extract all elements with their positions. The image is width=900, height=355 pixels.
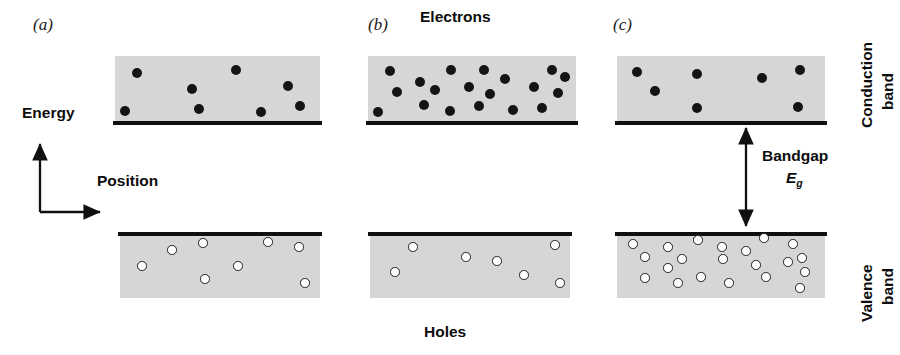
- panel-label-c: (c): [613, 15, 632, 35]
- bandgap-symbol-label: Eg: [786, 169, 803, 189]
- panel-c-valence-hole-16: [761, 272, 771, 282]
- panel-c-valence-hole-9: [696, 272, 706, 282]
- panel-a-valence-hole-7: [294, 242, 304, 252]
- bandgap-symbol-e: E: [786, 169, 796, 186]
- panel-a-valence-hole-8: [300, 278, 310, 288]
- panel-c-conduction-band-edge: [615, 121, 827, 125]
- band-diagram-figure: (a) (b) (c) Energy Posi: [0, 0, 900, 355]
- panel-a-valence-hole-6: [263, 237, 273, 247]
- panel-c-valence-hole-20: [800, 267, 810, 277]
- panel-c-valence-hole-10: [717, 242, 727, 252]
- valence-band-label-line1: Valence: [858, 264, 876, 322]
- panel-c-valence-hole-4: [663, 242, 673, 252]
- panel-a-valence-hole-5: [233, 261, 243, 271]
- panel-label-a: (a): [33, 15, 53, 35]
- panel-c-valence-hole-3: [640, 252, 650, 262]
- panel-a-valence-hole-1: [137, 261, 147, 271]
- panel-c-valence-hole-18: [788, 239, 798, 249]
- panel-b-valence-band-box: [370, 236, 570, 298]
- panel-b-valence-hole-1: [390, 267, 400, 277]
- panel-b-valence-hole-6: [550, 240, 560, 250]
- panel-c-valence-hole-7: [673, 278, 683, 288]
- panel-a-valence-hole-4: [200, 274, 210, 284]
- panel-c-valence-hole-8: [693, 235, 703, 245]
- panel-c-valence-hole-14: [751, 260, 761, 270]
- conduction-band-label-line1: Conduction: [858, 42, 876, 128]
- panel-c-valence-hole-17: [783, 257, 793, 267]
- panel-c-valence-hole-6: [677, 254, 687, 264]
- valence-band-label-line2: band: [879, 268, 897, 305]
- panel-c-valence-hole-1: [628, 239, 638, 249]
- panel-c-valence-hole-21: [795, 283, 805, 293]
- panel-a-valence-band-box: [120, 236, 320, 298]
- panel-b-valence-hole-2: [408, 242, 418, 252]
- panel-b-valence-hole-4: [492, 256, 502, 266]
- panel-b-conduction-band-edge: [366, 121, 578, 125]
- panel-c-valence-hole-12: [724, 278, 734, 288]
- panel-c-conduction-band-box: [617, 56, 825, 121]
- conduction-band-label-line2: band: [879, 73, 897, 110]
- bandgap-label: Bandgap: [762, 147, 828, 165]
- panel-b-valence-hole-7: [555, 278, 565, 288]
- panel-c-valence-hole-11: [718, 254, 728, 264]
- panel-a-valence-hole-2: [167, 245, 177, 255]
- position-axis-label: Position: [97, 172, 158, 190]
- panel-b-valence-hole-3: [461, 252, 471, 262]
- energy-axis-label: Energy: [22, 104, 75, 122]
- panel-label-b: (b): [368, 15, 388, 35]
- holes-label: Holes: [424, 323, 466, 341]
- panel-b-valence-hole-5: [519, 270, 529, 280]
- electrons-label: Electrons: [420, 8, 491, 26]
- panel-c-valence-hole-5: [663, 263, 673, 273]
- panel-c-valence-hole-15: [759, 233, 769, 243]
- panel-a-valence-hole-3: [198, 238, 208, 248]
- bandgap-symbol-subscript: g: [796, 177, 802, 189]
- panel-c-valence-hole-13: [741, 246, 751, 256]
- panel-c-valence-hole-2: [640, 273, 650, 283]
- panel-c-valence-hole-19: [797, 253, 807, 263]
- panel-a-conduction-band-edge: [113, 121, 322, 125]
